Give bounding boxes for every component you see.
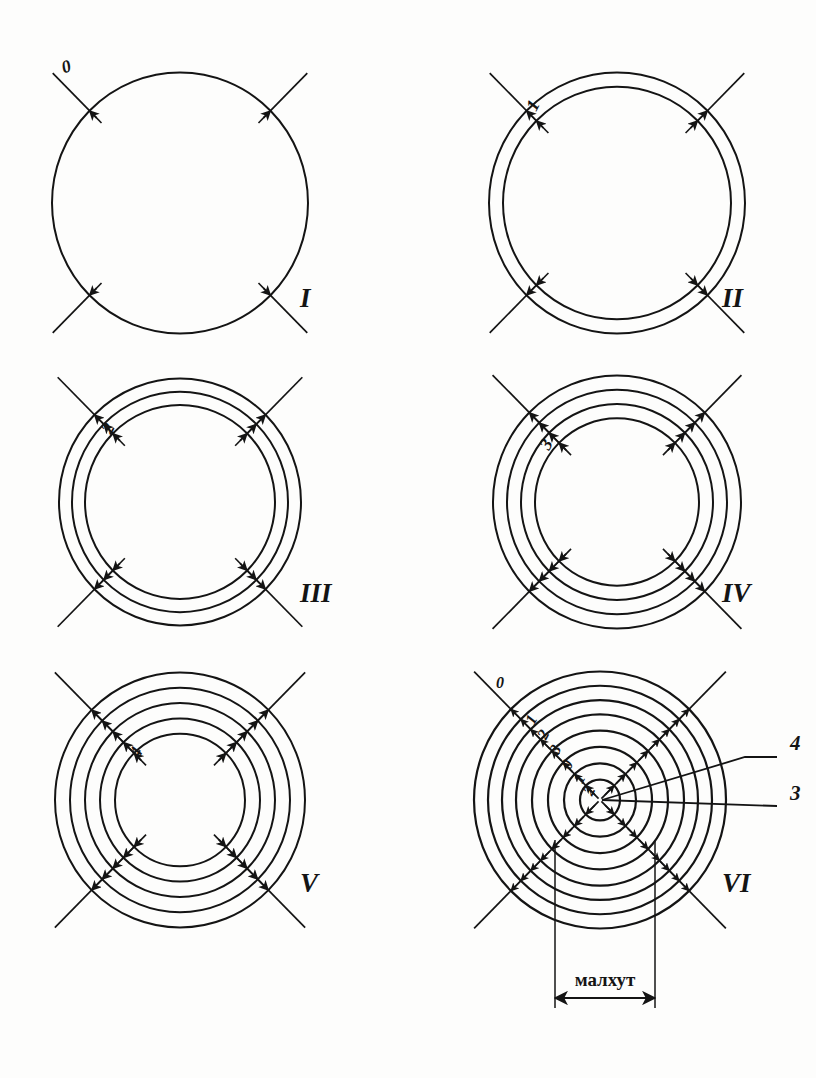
ring-label-0: 2: [96, 420, 118, 438]
ring-label-5: 1: [570, 771, 589, 786]
arrow-head-1-4: [639, 751, 648, 760]
arrow-head-2-2: [531, 861, 540, 870]
arrow-head-1-3: [225, 742, 237, 754]
arrow-head-2-3: [123, 845, 135, 857]
leader-label-0: 4: [789, 731, 801, 755]
arrow-head-1-2: [235, 731, 247, 743]
arrow-head-2-3: [559, 549, 571, 561]
leader-line-1: [602, 800, 777, 806]
panel-ii: 1II: [489, 72, 745, 333]
arrow-head-2-4: [134, 835, 146, 847]
arrow-head-3-0: [258, 283, 270, 295]
arrow-head-3-1: [686, 273, 698, 285]
arrow-head-3-4: [214, 835, 226, 847]
arrow-head-2-5: [563, 828, 572, 837]
arrow-head-3-6: [616, 817, 625, 826]
arrow-head-1-3: [663, 443, 675, 455]
arrow-head-0-1: [536, 121, 548, 133]
arrow-head-2-7: [586, 805, 595, 814]
arrow-head-0-3: [559, 443, 571, 455]
arrow-head-1-1: [246, 721, 258, 733]
arrow-head-3-3: [663, 549, 675, 561]
arrow-head-2-0: [511, 882, 520, 891]
arrow-head-1-2: [235, 433, 247, 445]
panel-group: 0I1II2III3IV4V0123012VI43малхут: [52, 55, 801, 1008]
figure-canvas: 0I1II2III3IV4V0123012VI43малхут: [0, 0, 816, 1078]
arrow-head-3-7: [605, 805, 614, 814]
ring-label-0: 0: [59, 55, 74, 77]
arrow-head-0-2: [113, 731, 125, 743]
panel-roman-numeral: V: [300, 868, 320, 898]
arrow-head-3-3: [225, 845, 237, 857]
arrow-head-0-1: [102, 721, 114, 733]
arrow-head-3-1: [670, 871, 679, 880]
arrow-head-1-1: [686, 121, 698, 133]
arrow-head-2-0: [89, 283, 101, 295]
arrow-head-3-4: [639, 840, 648, 849]
ring-label-0: 0: [496, 674, 504, 691]
arrow-head-3-2: [235, 856, 247, 868]
arrow-head-2-1: [102, 867, 114, 879]
arrow-head-1-0: [258, 111, 270, 123]
arrow-head-3-2: [235, 558, 247, 570]
arrow-head-2-2: [113, 856, 125, 868]
ring-label-2: 2: [533, 727, 552, 743]
arrow-head-1-5: [628, 762, 637, 771]
panel-v: 4V: [55, 672, 320, 927]
arrow-head-1-0: [256, 710, 268, 722]
panel-iii: 2III: [58, 377, 333, 627]
arrow-head-3-0: [680, 882, 689, 891]
arrow-head-1-1: [670, 719, 679, 728]
arrow-head-2-4: [552, 840, 561, 849]
arrow-head-3-1: [246, 867, 258, 879]
arrow-head-3-0: [256, 878, 268, 890]
arrow-head-1-3: [650, 739, 659, 748]
panel-i: 0I: [52, 55, 312, 333]
arrow-head-3-5: [628, 828, 637, 837]
arrow-head-2-0: [92, 878, 104, 890]
panel-roman-numeral: I: [299, 283, 312, 313]
ring-label-0: 3: [534, 436, 556, 454]
arrow-head-1-2: [660, 729, 669, 738]
arrow-head-2-1: [536, 273, 548, 285]
concentric-sphere-diagram: 0I1II2III3IV4V0123012VI43малхут: [0, 0, 816, 1078]
arrow-head-3-2: [660, 861, 669, 870]
panel-roman-numeral: III: [299, 578, 333, 608]
arrow-head-0-0: [89, 111, 101, 123]
arrow-head-0-0: [92, 710, 104, 722]
panel-roman-numeral: II: [721, 283, 745, 313]
arrow-head-2-2: [113, 558, 125, 570]
leader-label-1: 3: [789, 781, 801, 805]
arrow-head-1-6: [616, 774, 625, 783]
panel-roman-numeral: IV: [721, 578, 753, 608]
arrow-head-2-6: [575, 817, 584, 826]
arrow-head-1-4: [214, 753, 226, 765]
dimension-caption: малхут: [575, 969, 636, 990]
panel-roman-numeral: VI: [722, 868, 752, 898]
ring-label-1: 1: [522, 712, 541, 727]
arrow-head-1-7: [605, 786, 614, 795]
arrow-head-2-3: [541, 851, 550, 860]
panel-iv: 3IV: [493, 375, 753, 629]
panel-vi: 0123012VI43малхут: [474, 671, 801, 1008]
arrow-head-2-1: [521, 871, 530, 880]
arrow-head-1-0: [680, 709, 689, 718]
arrow-head-0-0: [511, 709, 520, 718]
